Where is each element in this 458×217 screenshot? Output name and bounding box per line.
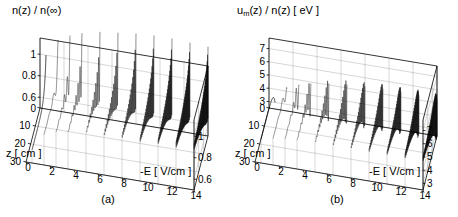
panel-b-plot: 3456703456702468101214102030z [ cm ]-E [… <box>229 0 458 217</box>
tick-label-value-right: 3 <box>427 178 433 189</box>
tick-label-value-left: 1 <box>30 49 36 60</box>
tick-label-field: 6 <box>326 174 332 185</box>
value-axis-title: um(z) / n(z) [ eV ] <box>237 4 319 18</box>
data-trace <box>44 40 58 135</box>
gridline-value-back <box>40 54 208 82</box>
tick-label-field: 8 <box>350 178 356 189</box>
tick-label-field: 14 <box>190 190 202 201</box>
depth-axis-name: z [ cm ] <box>235 147 270 159</box>
data-trace <box>405 90 419 158</box>
field-axis-name: -E [ V/cm ] <box>369 165 420 177</box>
panel-a-plot: 0.60.8100.60.8102468101214102030z [ cm ]… <box>0 0 229 217</box>
data-trace <box>297 83 311 140</box>
tick-label-value-right: 0.6 <box>198 174 212 185</box>
tick-label-value-right: 6 <box>427 138 433 149</box>
tick-label-value-left: 5 <box>259 69 265 80</box>
panel-label: (a) <box>101 193 114 205</box>
field-axis-name: -E [ V/cm ] <box>140 165 191 177</box>
tick-label-field: 0 <box>25 162 31 173</box>
tick-label-origin: 0 <box>30 103 36 114</box>
figure-container: 0.60.8100.60.8102468101214102030z [ cm ]… <box>0 0 458 217</box>
frame-top-back <box>40 38 208 66</box>
tick-label-depth: 10 <box>248 120 260 131</box>
tick-depth <box>262 125 265 126</box>
tick-label-value-left: 7 <box>259 43 265 54</box>
panel-a: 0.60.8100.60.8102468101214102030z [ cm ]… <box>0 0 229 217</box>
tick-label-field: 14 <box>419 190 431 201</box>
tick-depth <box>28 143 31 144</box>
tick-label-value-right: 0.8 <box>198 152 212 163</box>
data-trace <box>351 82 365 148</box>
tick-label-field: 2 <box>278 166 284 177</box>
tick-label-value-left: 0.6 <box>22 92 36 103</box>
data-trace <box>273 88 287 139</box>
gridline-value-back <box>269 62 437 90</box>
tick-label-depth: 10 <box>19 120 31 131</box>
tick-label-value-right: 1 <box>198 131 204 142</box>
tick-label-origin: 0 <box>259 103 265 114</box>
tick-label-value-right: 7 <box>427 125 433 136</box>
tick-label-field: 10 <box>142 182 154 193</box>
panel-b: 3456703456702468101214102030z [ cm ]-E [… <box>229 0 458 217</box>
tick-label-field: 6 <box>97 174 103 185</box>
tick-label-field: 8 <box>121 178 127 189</box>
gridline-value-back <box>269 75 437 103</box>
tick-label-field: 12 <box>166 186 178 197</box>
panel-label: (b) <box>330 193 343 205</box>
value-axis-title: n(z) / n(∞) <box>12 4 61 16</box>
tick-label-field: 4 <box>302 170 308 181</box>
tick-label-value-left: 6 <box>259 56 265 67</box>
axis-labels: 0.60.8100.60.8102468101214102030z [ cm ]… <box>6 4 212 205</box>
floor-outline <box>255 108 437 190</box>
tick-label-field: 4 <box>73 170 79 181</box>
tick-label-value-right: 5 <box>427 151 433 162</box>
gridline-value-back <box>269 49 437 77</box>
tick-depth <box>257 143 260 144</box>
tick-label-field: 0 <box>254 162 260 173</box>
tick-label-value-left: 4 <box>259 83 265 94</box>
data-trace <box>369 84 383 151</box>
tick-label-field: 12 <box>395 186 407 197</box>
depth-axis-name: z [ cm ] <box>6 147 41 159</box>
data-trace <box>333 81 347 145</box>
data-trace <box>56 35 70 132</box>
tick-label-value-right: 4 <box>427 165 433 176</box>
tick-label-field: 10 <box>371 182 383 193</box>
tick-label-field: 2 <box>49 166 55 177</box>
frame-top-back <box>269 38 437 66</box>
tick-depth <box>33 125 36 126</box>
tick-label-value-left: 0.8 <box>22 70 36 81</box>
